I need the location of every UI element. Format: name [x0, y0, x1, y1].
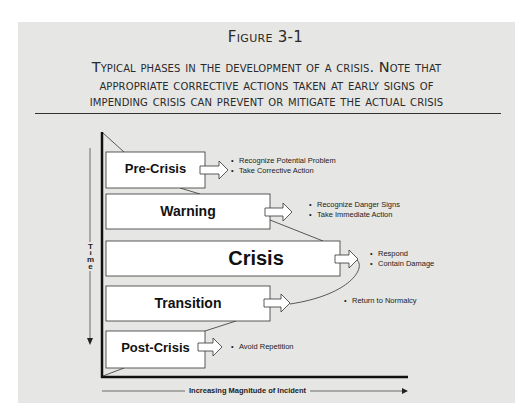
warning-label: Warning: [106, 203, 270, 219]
action-item: Avoid Repetition: [231, 342, 293, 352]
post-crisis-label: Post-Crisis: [106, 340, 205, 355]
time-arrowhead-icon: [87, 338, 93, 345]
action-item: Take Immediate Action: [309, 210, 400, 220]
magnitude-arrowhead-icon: [402, 388, 408, 394]
warning-actions: Recognize Danger Signs Take Immediate Ac…: [309, 200, 400, 220]
action-item: Recognize Danger Signs: [309, 200, 400, 210]
transition-label: Transition: [106, 295, 270, 311]
time-label-letter: e: [86, 262, 95, 271]
action-item: Respond: [370, 249, 434, 259]
crisis-label: Crisis: [176, 247, 336, 270]
transition-actions: Return to Normalcy: [344, 296, 417, 306]
pre-crisis-actions: Recognize Potential Problem Take Correct…: [231, 156, 336, 176]
action-item: Return to Normalcy: [344, 296, 417, 306]
post-crisis-actions: Avoid Repetition: [231, 342, 293, 352]
warning-to-crisis-line: [270, 220, 323, 241]
action-item: Recognize Potential Problem: [231, 156, 336, 166]
x-axis-label: Increasing Magnitude of Incident: [185, 386, 310, 395]
action-item: Take Corrective Action: [231, 166, 336, 176]
crisis-actions: Respond Contain Damage: [370, 249, 434, 269]
action-item: Contain Damage: [370, 259, 434, 269]
pre-crisis-label: Pre-Crisis: [106, 161, 205, 176]
